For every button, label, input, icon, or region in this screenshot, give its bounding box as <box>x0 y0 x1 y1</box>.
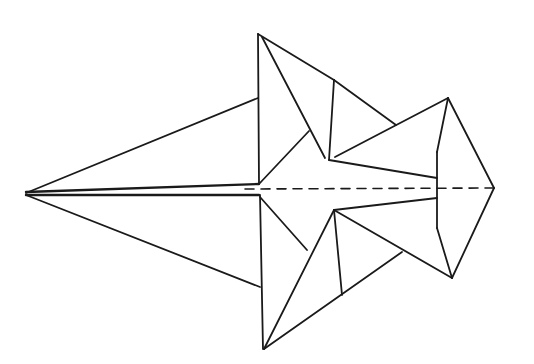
bottom-flap-diagonal <box>264 210 334 349</box>
fold-diagram-drawing <box>0 0 534 364</box>
bottom-flap-outer <box>264 252 402 349</box>
right-kite-upper-outer <box>448 98 494 188</box>
bottom-second-vertical <box>334 210 342 295</box>
top-center-bar <box>329 160 437 178</box>
top-right-diagonal <box>335 98 448 157</box>
top-inner-fold <box>259 131 309 184</box>
center-spine-upper <box>26 184 259 192</box>
top-second-vertical <box>329 80 334 160</box>
bottom-right-diagonal <box>334 210 452 278</box>
left-lower-edge <box>26 195 260 287</box>
top-flap-outer <box>258 34 334 80</box>
bottom-flap-vertical <box>260 195 263 349</box>
dashed-center-fold-line <box>245 188 494 189</box>
bottom-center-bar <box>334 198 437 210</box>
right-kite-upper-inner <box>437 98 448 152</box>
right-kite-lower-outer <box>452 188 494 278</box>
left-upper-edge <box>26 98 258 193</box>
origami-diagram <box>0 0 534 364</box>
top-second-outer <box>334 80 396 125</box>
top-flap-vertical <box>258 34 259 184</box>
bottom-inner-fold <box>260 197 307 250</box>
